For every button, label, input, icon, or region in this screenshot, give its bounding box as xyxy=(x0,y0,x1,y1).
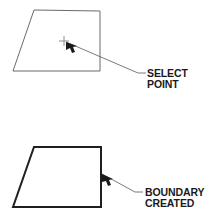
select-point-panel: SELECT POINT xyxy=(13,10,189,90)
boundary-created-panel: BOUNDARY CREATED xyxy=(13,147,205,209)
quadrilateral-bold-shape xyxy=(13,147,101,207)
select-point-label-line2: POINT xyxy=(147,78,179,90)
quadrilateral-thin-shape xyxy=(13,10,100,71)
arrow-cursor-icon xyxy=(66,42,77,53)
cad-instruction-diagram: SELECT POINT BOUNDARY CREATED xyxy=(0,0,212,219)
select-point-leader-line xyxy=(66,42,146,73)
diagram-canvas: SELECT POINT BOUNDARY CREATED xyxy=(0,0,212,219)
arrow-cursor-icon xyxy=(102,174,113,186)
boundary-created-label-line2: CREATED xyxy=(145,197,195,209)
